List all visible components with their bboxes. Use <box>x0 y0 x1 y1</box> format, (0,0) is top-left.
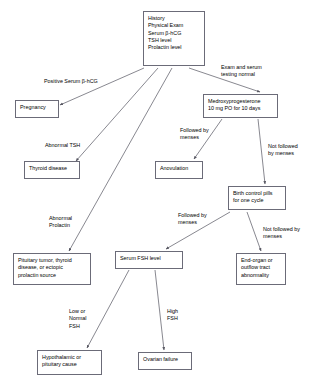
node-pregnancy[interactable]: Pregnancy <box>15 100 59 118</box>
flow-edge-medroxy-to-bcp <box>258 119 265 184</box>
edge-label-bcp-to-end-organ: Not followed by menses <box>263 226 300 241</box>
node-ovarian-failure[interactable]: Ovarian failure <box>138 352 192 370</box>
node-end-organ-abnormality[interactable]: End-organ or outflow tract abnormality <box>236 253 286 285</box>
flow-edge-initial-to-pituitary <box>69 68 172 251</box>
node-pituitary-tumor[interactable]: Pituitary tumor, thyroid disease, or ect… <box>13 253 91 285</box>
edge-label-fsh-to-ovarian-failure: High FSH <box>167 308 178 323</box>
flow-edge-initial-to-pregnancy <box>60 68 144 105</box>
edge-label-initial-to-pregnancy: Positive Serum β-hCG <box>44 78 98 85</box>
node-birth-control-pills[interactable]: Birth control pills for one cycle <box>228 186 286 210</box>
node-hypothalamic-pituitary-cause[interactable]: Hypothalamic or pituitary cause <box>37 350 102 375</box>
edge-label-bcp-to-fsh: Followed by menses <box>178 212 207 227</box>
node-thyroid-disease[interactable]: Thyroid disease <box>24 161 80 179</box>
edge-label-fsh-to-hypothalamic: Low or Normal FSH <box>69 308 86 330</box>
node-serum-fsh-level[interactable]: Serum FSH level <box>115 251 183 269</box>
flowchart-canvas: Positive Serum β-hCGAbnormal TSHAbnormal… <box>0 0 320 383</box>
flow-edge-bcp-to-end-organ <box>247 212 261 251</box>
node-medroxyprogesterone[interactable]: Medroxyprogesterone 10 mg PO for 10 days <box>203 94 278 118</box>
node-anovulation[interactable]: Anovulation <box>155 161 203 179</box>
node-initial-workup[interactable]: History Physical Exam Serum β-hCG TSH le… <box>143 11 205 66</box>
edge-label-initial-to-thyroid: Abnormal TSH <box>45 142 80 149</box>
edge-label-initial-to-pituitary: Abnormal Prolactin <box>49 215 72 230</box>
edge-label-medroxy-to-bcp: Not followed by menses <box>268 143 298 158</box>
edge-label-initial-to-medroxyprogesterone: Exam and serum testing normal <box>221 64 262 79</box>
flow-edge-fsh-to-hypothalamic <box>87 270 129 348</box>
flow-edge-fsh-to-ovarian-failure <box>155 270 164 350</box>
edge-label-medroxy-to-anovulation: Followed by menses <box>180 127 209 142</box>
